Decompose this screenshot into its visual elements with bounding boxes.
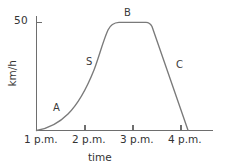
speed-curve	[37, 22, 189, 130]
x-axis-tick-label-4pm: 4 p.m.	[168, 134, 202, 145]
curve-annotation-b: B	[124, 8, 131, 18]
curve-annotation-s: S	[86, 57, 92, 67]
x-axis-tick-label-2pm: 2 p.m.	[72, 134, 106, 145]
x-axis-tick-label-3pm: 3 p.m.	[120, 134, 154, 145]
curve-annotation-a: A	[53, 103, 60, 113]
x-axis-tick-label-1pm: 1 p.m.	[24, 134, 58, 145]
x-axis-title: time	[88, 152, 112, 163]
curve-annotation-c: C	[176, 60, 183, 70]
chart-container: 50 km/h 1 p.m. 2 p.m. 3 p.m. 4 p.m. time…	[0, 0, 231, 167]
y-axis-title: km/h	[7, 50, 18, 96]
y-axis-tick-label-50: 50	[14, 15, 28, 26]
